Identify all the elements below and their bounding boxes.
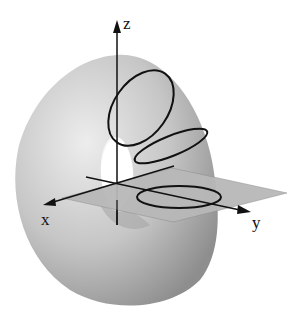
y-axis-arrow [237, 205, 251, 214]
z-axis-arrow [113, 20, 121, 33]
y-axis-label: y [252, 214, 261, 231]
torus-diagram [0, 0, 301, 323]
z-axis-label: z [123, 15, 131, 32]
x-axis-label: x [41, 211, 50, 228]
